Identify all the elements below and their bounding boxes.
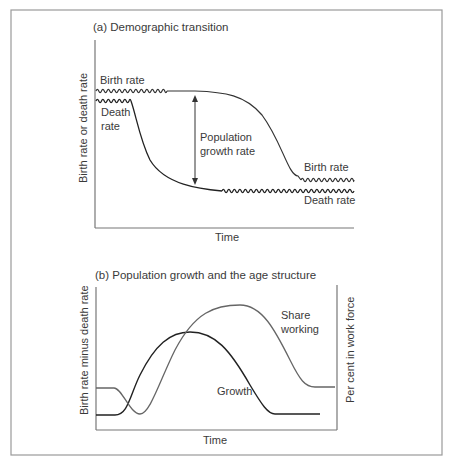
panel-b-y-label-right: Per cent in work force bbox=[344, 297, 356, 403]
death-rate-label-start-1: Death bbox=[101, 106, 130, 118]
birth-rate-label-start: Birth rate bbox=[100, 74, 145, 86]
share-working-curve bbox=[96, 305, 335, 414]
panel-a-y-label: Birth rate or death rate bbox=[77, 73, 89, 183]
panel-b: (b) Population growth and the age struct… bbox=[78, 269, 356, 446]
share-working-label-2: working bbox=[280, 323, 319, 335]
panel-b-title: (b) Population growth and the age struct… bbox=[95, 269, 316, 281]
death-rate-label-start-2: rate bbox=[101, 120, 120, 132]
death-rate-label-end: Death rate bbox=[304, 194, 355, 206]
birth-rate-wavy-start bbox=[96, 89, 167, 92]
death-rate-wavy-start bbox=[96, 99, 131, 102]
birth-rate-label-end: Birth rate bbox=[304, 161, 349, 173]
figure: (a) Demographic transition Birth rate or… bbox=[0, 0, 450, 464]
panel-a-x-label: Time bbox=[215, 231, 239, 243]
panel-a-title: (a) Demographic transition bbox=[93, 21, 229, 33]
death-rate-wavy-end bbox=[222, 189, 354, 192]
panel-b-y-label-left: Birth rate minus death rate bbox=[78, 285, 90, 415]
birth-rate-wavy-end bbox=[301, 178, 354, 181]
population-growth-arrow bbox=[192, 95, 198, 185]
growth-label: Growth bbox=[217, 385, 252, 397]
growth-rate-label-1: Population bbox=[200, 131, 252, 143]
growth-rate-label-2: growth rate bbox=[200, 145, 255, 157]
panel-b-x-label: Time bbox=[203, 434, 227, 446]
share-working-label-1: Share bbox=[281, 309, 310, 321]
growth-curve bbox=[96, 332, 320, 415]
panel-a: (a) Demographic transition Birth rate or… bbox=[77, 21, 355, 243]
